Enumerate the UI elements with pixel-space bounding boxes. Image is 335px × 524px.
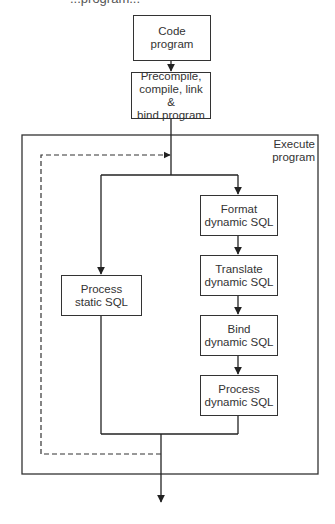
format-dynamic-label: Format dynamic SQL [204,203,273,229]
translate-dynamic-box: Translate dynamic SQL [200,255,278,296]
code-program-label: Code program [151,25,194,51]
format-dynamic-box: Format dynamic SQL [200,195,278,236]
precompile-box: Precompile, compile, link & bind program [131,72,211,119]
process-dynamic-label: Process dynamic SQL [204,383,273,409]
execute-program-label: Execute program [272,138,315,164]
code-program-box: Code program [133,15,211,61]
process-static-box: Process static SQL [61,275,142,316]
process-dynamic-box: Process dynamic SQL [200,375,278,416]
bind-dynamic-label: Bind dynamic SQL [204,323,273,349]
bind-dynamic-box: Bind dynamic SQL [200,315,278,356]
process-static-label: Process static SQL [75,283,128,309]
precompile-label: Precompile, compile, link & bind program [134,70,208,122]
translate-dynamic-label: Translate dynamic SQL [204,263,273,289]
